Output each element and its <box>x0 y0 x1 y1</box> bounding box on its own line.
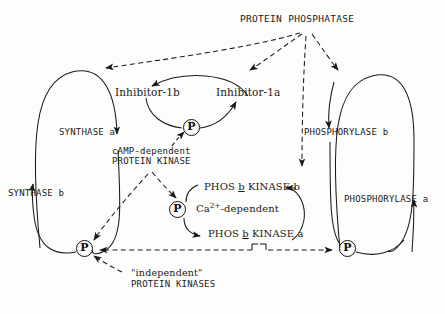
ca-charge: 2+ <box>210 201 221 210</box>
node-protein-phosphatase: PROTEIN PHOSPHATASE <box>240 14 354 25</box>
phos-kinase-a-prefix: PHOS <box>208 228 239 239</box>
node-inhibitor-1b: Inhibitor-1b <box>115 86 180 98</box>
node-ca-dependent: Ca2+-dependent <box>196 203 279 215</box>
node-phosphorylase-b: PHOSPHORYLASE b <box>304 127 388 137</box>
phosphate-group-phos-kinase: P <box>169 201 186 218</box>
node-independent-protein-kinases: "independent" PROTEIN KINASES <box>131 268 215 289</box>
diagram-canvas: PROTEIN PHOSPHATASE Inhibitor-1b Inhibit… <box>0 0 445 314</box>
camp-kinase-line-2: PROTEIN KINASE <box>112 156 191 166</box>
phos-kinase-b-suffix: KINASE b <box>248 181 300 192</box>
independent-line-2: PROTEIN KINASES <box>131 279 215 289</box>
node-phos-b-kinase-a: PHOS b KINASE a <box>208 228 303 240</box>
phos-kinase-a-suffix: KINASE a <box>252 228 303 239</box>
ca-prefix: Ca <box>196 203 210 214</box>
phos-kinase-a-underline: b <box>242 228 249 239</box>
phosphate-group-inhibitor: P <box>183 119 200 136</box>
pathway-graphic <box>0 0 445 314</box>
node-camp-protein-kinase: cAMP-dependent PROTEIN KINASE <box>112 146 191 167</box>
node-phosphorylase-a: PHOSPHORYLASE a <box>344 194 428 204</box>
ca-suffix: -dependent <box>221 203 279 214</box>
phos-kinase-b-prefix: PHOS <box>204 181 235 192</box>
phos-kinase-b-underline: b <box>238 181 245 192</box>
camp-kinase-line-1: cAMP-dependent <box>112 146 191 156</box>
independent-line-1: "independent" <box>131 268 215 279</box>
phosphate-group-phosphorylase: P <box>339 240 356 257</box>
node-synthase-b: SYNTHASE b <box>8 188 64 198</box>
node-inhibitor-1a: Inhibitor-1a <box>216 86 280 98</box>
node-synthase-a: SYNTHASE a <box>59 127 115 137</box>
node-phos-b-kinase-b: PHOS b KINASE b <box>204 181 300 193</box>
phosphate-group-synthase: P <box>76 240 93 257</box>
